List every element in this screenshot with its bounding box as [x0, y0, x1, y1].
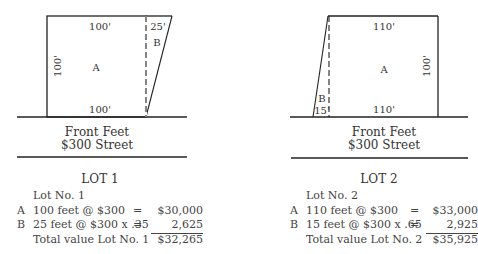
calc-total-amount: $35,925 — [418, 233, 478, 248]
lot-1-parcel-a-label: A — [91, 62, 100, 73]
calc-row-amount: $33,000 — [418, 204, 478, 219]
lot-1-calc-total-row: Total value Lot No. 1 $32,265 — [17, 233, 192, 248]
lot-1-top-b-dim: 25' — [150, 21, 165, 32]
calc-row-amount: 2,625 — [151, 218, 203, 234]
lot-2-front-dim: 110' — [373, 104, 395, 115]
lot-2-calc-total-row: Total value Lot No. 2 $35,925 — [290, 233, 470, 248]
calc-row-equals: = — [410, 218, 419, 233]
calc-row-desc: 100 feet @ $300 — [33, 204, 125, 219]
calc-row-letter: A — [290, 204, 298, 219]
calc-row-desc: 15 feet @ $300 x .65 — [306, 218, 422, 233]
lot-1-calc-header-row: Lot No. 1 — [17, 189, 192, 204]
lot-2-top-a-dim: 110' — [373, 21, 395, 32]
lot-2-parcel-a-label: A — [379, 64, 388, 75]
lot-1-top-a-dim: 100' — [89, 21, 111, 32]
lot-1-side-dim: 100' — [52, 55, 63, 77]
lot-1-parcel-b-label: B — [153, 37, 160, 48]
lot-1-street-heading: Front Feet $300 Street — [42, 126, 152, 152]
lot-2-street-rate-label: $300 Street — [329, 139, 439, 152]
lot-2-front-b-dim: 15' — [314, 105, 329, 116]
lot-1-calc-row-b: B 25 feet @ $300 x .35 = 2,625 — [17, 218, 192, 233]
calc-row-desc: 110 feet @ $300 — [306, 204, 398, 219]
calc-row-letter: A — [17, 204, 25, 219]
calc-row-amount: 2,925 — [426, 218, 478, 234]
lot-2-street-heading: Front Feet $300 Street — [329, 126, 439, 152]
calc-row-letter: B — [290, 218, 298, 233]
calc-row-equals: = — [133, 218, 142, 233]
lot-2-calc-row-b: B 15 feet @ $300 x .65 = 2,925 — [290, 218, 470, 233]
lot-1-calc-header: Lot No. 1 — [33, 189, 85, 204]
lot-2-calculation: Lot No. 2 A 110 feet @ $300 = $33,000 B … — [290, 189, 470, 247]
lot-1-calc-row-a: A 100 feet @ $300 = $30,000 — [17, 204, 192, 219]
lot-2-calc-row-a: A 110 feet @ $300 = $33,000 — [290, 204, 470, 219]
lot-2-calc-header: Lot No. 2 — [306, 189, 358, 204]
lot-1-front-dim: 100' — [89, 104, 111, 115]
lot-1-title: LOT 1 — [60, 172, 140, 186]
lot-2-side-dim: 100' — [421, 55, 432, 77]
lot-1-calculation: Lot No. 1 A 100 feet @ $300 = $30,000 B … — [17, 189, 192, 247]
calc-row-equals: = — [133, 204, 142, 219]
calc-row-desc: 25 feet @ $300 x .35 — [33, 218, 149, 233]
lot-1-street-rate-label: $300 Street — [42, 139, 152, 152]
calc-total-label: Total value Lot No. 1 — [33, 233, 149, 248]
calc-row-amount: $30,000 — [145, 204, 203, 219]
lot-1-diagram: 100' 25' B A 100' 100' — [17, 16, 187, 117]
calc-total-amount: $32,265 — [145, 233, 203, 248]
calc-total-label: Total value Lot No. 2 — [306, 233, 422, 248]
calc-row-letter: B — [17, 218, 25, 233]
lot-2-title: LOT 2 — [339, 172, 419, 186]
lot-2-diagram: 110' A 100' B 15' 110' — [290, 16, 468, 117]
lot-2-calc-header-row: Lot No. 2 — [290, 189, 470, 204]
lot-2-parcel-b-label: B — [318, 93, 325, 104]
